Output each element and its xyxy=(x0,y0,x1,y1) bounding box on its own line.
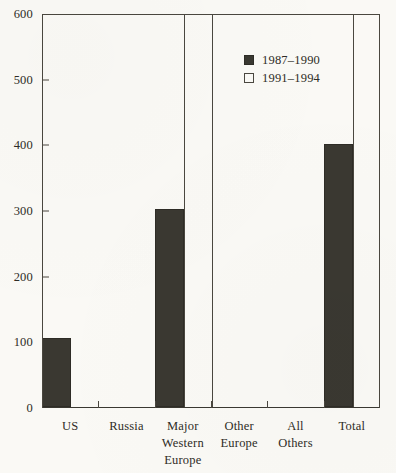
x-axis-label-major-western-europe: MajorWesternEurope xyxy=(162,418,204,469)
x-axis-category-labels: USRussiaMajorWesternEuropeOtherEuropeAll… xyxy=(42,418,380,473)
bar-major-western-europe-1987-1990 xyxy=(155,209,184,407)
x-axis-tick-mark xyxy=(379,401,380,408)
legend-label: 1991–1994 xyxy=(262,70,320,86)
bar-total-1991-1994 xyxy=(353,14,380,407)
y-axis-tick-label: 500 xyxy=(14,72,33,87)
x-axis-label-line: Europe xyxy=(162,452,204,469)
x-axis-label-line: Others xyxy=(278,435,313,452)
x-axis-label-us: US xyxy=(62,418,78,435)
x-axis-label-other-europe: OtherEurope xyxy=(221,418,258,452)
x-axis-tick-mark xyxy=(211,401,212,408)
x-axis-label-line: Western xyxy=(162,435,204,452)
bar-chart-figure: 0100200300400500600 USRussiaMajorWestern… xyxy=(0,0,396,473)
x-axis-label-line: Europe xyxy=(221,435,258,452)
x-axis-label-line: Russia xyxy=(109,418,144,435)
bar-total-1987-1990 xyxy=(324,144,353,407)
chart-legend: 1987–19901991–1994 xyxy=(244,52,320,88)
x-axis-label-russia: Russia xyxy=(109,418,144,435)
bar-us-1987-1990 xyxy=(42,338,71,407)
y-axis-labels: 0100200300400500600 xyxy=(0,0,42,473)
plot-area xyxy=(42,14,380,408)
x-axis-label-line: All xyxy=(278,418,313,435)
x-axis-label-all-others: AllOthers xyxy=(278,418,313,452)
x-axis-label-line: US xyxy=(62,418,78,435)
y-axis-tick-label: 200 xyxy=(14,269,33,284)
y-axis-tick-label: 300 xyxy=(14,204,33,219)
legend-item: 1991–1994 xyxy=(244,70,320,86)
x-axis-tick-mark xyxy=(98,401,99,408)
filled-square-icon xyxy=(244,55,254,65)
x-axis-label-line: Total xyxy=(339,418,366,435)
bar-major-western-europe-1991-1994 xyxy=(184,14,213,407)
y-axis-tick-label: 0 xyxy=(27,401,33,416)
y-axis-tick-label: 600 xyxy=(14,7,33,22)
x-axis-tick-mark xyxy=(42,401,43,408)
y-axis-tick-label: 400 xyxy=(14,138,33,153)
x-axis-label-line: Major xyxy=(162,418,204,435)
hollow-square-icon xyxy=(244,73,254,83)
x-axis-tick-marks xyxy=(42,408,380,418)
x-axis-tick-mark xyxy=(267,401,268,408)
y-axis-tick-label: 100 xyxy=(14,335,33,350)
legend-label: 1987–1990 xyxy=(262,52,320,68)
x-axis-tick-mark xyxy=(155,401,156,408)
x-axis-label-total: Total xyxy=(339,418,366,435)
legend-item: 1987–1990 xyxy=(244,52,320,68)
x-axis-tick-mark xyxy=(324,401,325,408)
x-axis-label-line: Other xyxy=(221,418,258,435)
